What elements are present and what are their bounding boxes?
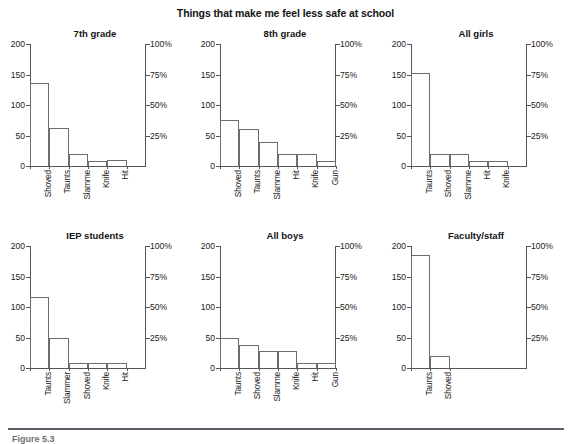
x-tick-label: Taunts [252, 170, 262, 193]
y2-tick-label: 75% [340, 272, 357, 282]
plot-area: 05010015020025%50%75%100%ShovedTauntsSla… [220, 44, 336, 166]
x-tick [239, 166, 240, 169]
x-tick [278, 166, 279, 169]
y-tick-label: 200 [201, 39, 215, 49]
x-tick-label: Taunts [233, 372, 243, 395]
x-tick [239, 368, 240, 371]
bar [450, 154, 469, 166]
x-tick [317, 368, 318, 371]
plot-area: 05010015020025%50%75%100%ShovedTauntsSla… [30, 44, 146, 166]
bar [220, 120, 239, 166]
y-tick [26, 44, 30, 45]
y-tick [216, 105, 220, 106]
x-tick-label: Hit [120, 170, 130, 180]
y2-tick-label: 100% [531, 39, 553, 49]
x-tick-label: Hit [291, 170, 301, 180]
y-tick-label: 150 [392, 272, 406, 282]
x-tick [107, 166, 108, 169]
y2-tick-label: 50% [150, 100, 167, 110]
x-tick [69, 368, 70, 371]
panel-title: 7th grade [30, 28, 160, 39]
bar [49, 338, 68, 369]
x-tick-label: Hit [482, 170, 492, 180]
y2-tick-label: 25% [150, 131, 167, 141]
y2-tick-label: 75% [150, 272, 167, 282]
bar [259, 351, 278, 368]
y2-tick-label: 75% [340, 70, 357, 80]
y-tick-label: 150 [201, 272, 215, 282]
y-tick [26, 246, 30, 247]
x-tick-label: Shoved [43, 170, 53, 197]
x-tick-label: Slamme [463, 170, 473, 200]
x-tick [450, 166, 451, 169]
x-tick [30, 166, 31, 169]
y-tick [216, 44, 220, 45]
x-tick [430, 368, 431, 371]
bar [69, 154, 88, 166]
x-tick [88, 166, 89, 169]
y-tick-label: 50 [396, 333, 406, 343]
bar [88, 161, 107, 166]
x-tick [107, 368, 108, 371]
x-tick [49, 166, 50, 169]
x-tick-label: Shoved [233, 170, 243, 197]
y-tick-label: 0 [20, 363, 25, 373]
y-tick-label: 100 [201, 100, 215, 110]
panel-title: IEP students [30, 230, 160, 241]
y2-tick-label: 50% [531, 100, 548, 110]
bar [88, 363, 107, 368]
bar [278, 351, 297, 368]
panel-faculty-staff: Faculty/staff05010015020025%50%75%100%Ta… [381, 230, 571, 425]
figure-title: Things that make me feel less safe at sc… [0, 7, 571, 19]
caption-rule [8, 428, 564, 430]
bar [30, 297, 49, 368]
y2-tick-label: 25% [150, 333, 167, 343]
x-tick-label: Taunts [62, 170, 72, 193]
x-tick [69, 166, 70, 169]
bar [317, 363, 336, 368]
bar [297, 154, 316, 166]
y-tick-label: 50 [15, 333, 25, 343]
bar [239, 129, 258, 166]
y2-tick-label: 100% [150, 241, 172, 251]
x-tick-label: Slammer [62, 372, 72, 404]
y-tick [216, 307, 220, 308]
x-tick [508, 166, 509, 169]
y-tick [407, 246, 411, 247]
plot-area: 05010015020025%50%75%100%TauntsShovedSla… [411, 44, 527, 166]
x-tick-label: Shoved [82, 372, 92, 399]
y-tick-label: 0 [401, 363, 406, 373]
bar [239, 345, 258, 368]
panel-title: All girls [411, 28, 541, 39]
panel-title: All boys [220, 230, 350, 241]
bar [488, 161, 507, 166]
x-tick [450, 368, 451, 371]
x-tick-label: Shoved [252, 372, 262, 399]
bar [69, 363, 88, 368]
x-tick-label: Knife [310, 170, 320, 188]
x-tick [220, 166, 221, 169]
x-tick-label: Gun [330, 372, 340, 387]
y2-tick-label: 25% [531, 333, 548, 343]
y-tick-label: 0 [401, 161, 406, 171]
axis-bottom [411, 368, 527, 369]
x-tick [297, 166, 298, 169]
y-tick-label: 200 [392, 39, 406, 49]
bar [430, 154, 449, 166]
y-tick-label: 200 [11, 39, 25, 49]
bar [220, 338, 239, 369]
bar [430, 356, 449, 368]
x-tick-label: Hit [120, 372, 130, 382]
x-tick [317, 166, 318, 169]
x-tick [127, 166, 128, 169]
bar [49, 128, 68, 166]
y-tick-label: 150 [392, 70, 406, 80]
panel-title: Faculty/staff [411, 230, 541, 241]
bar [469, 161, 488, 166]
y-tick-label: 100 [11, 100, 25, 110]
y-tick-label: 50 [205, 131, 215, 141]
y-tick [407, 44, 411, 45]
x-tick [259, 368, 260, 371]
x-tick-label: Shoved [443, 372, 453, 399]
y-tick-label: 200 [201, 241, 215, 251]
